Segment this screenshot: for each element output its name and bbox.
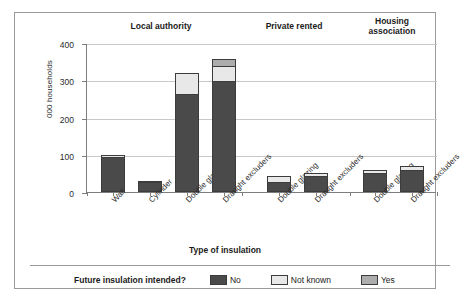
group-header-housing-association: Housing association xyxy=(349,16,435,36)
legend-item-no[interactable]: No xyxy=(210,275,241,285)
gridline-300 xyxy=(87,81,437,82)
y-tick-100: 100 xyxy=(82,156,87,157)
legend-swatch-no xyxy=(210,275,227,285)
chart-frame: 000 households 400 300 200 100 0 xyxy=(14,12,436,289)
x-tick-boundary-1 xyxy=(242,192,243,196)
x-tick-boundary-3 xyxy=(437,192,438,196)
legend-item-yes[interactable]: Yes xyxy=(361,275,395,285)
bar-0[interactable] xyxy=(101,155,125,192)
legend-label-yes: Yes xyxy=(381,275,395,285)
legend-label-not-known: Not known xyxy=(291,275,331,285)
chart-legend: Future insulation intended? No Not known… xyxy=(30,275,450,285)
bar-segment-notknown xyxy=(212,66,236,81)
bar-segment-no xyxy=(212,81,236,192)
legend-label-no: No xyxy=(230,275,241,285)
legend-divider xyxy=(30,265,450,266)
y-tick-300: 300 xyxy=(82,81,87,82)
legend-swatch-not-known xyxy=(271,275,288,285)
group-header-local-authority: Local authority xyxy=(101,21,221,31)
bar-2[interactable] xyxy=(175,73,199,192)
x-tick-boundary-2 xyxy=(350,192,351,196)
bar-3[interactable] xyxy=(212,59,236,192)
y-tick-label-0: 0 xyxy=(69,189,74,199)
legend-item-not-known[interactable]: Not known xyxy=(271,275,331,285)
gridline-400 xyxy=(87,44,437,45)
y-tick-label-200: 200 xyxy=(60,115,74,125)
bar-segment-yes xyxy=(212,59,236,66)
bar-segment-notknown xyxy=(175,73,199,94)
bar-segment-no xyxy=(175,94,199,192)
legend-title: Future insulation intended? xyxy=(74,275,186,285)
plot-area: 400 300 200 100 0 Local authority Privat… xyxy=(86,44,436,193)
y-tick-400: 400 xyxy=(82,44,87,45)
legend-swatch-yes xyxy=(361,275,378,285)
y-tick-label-100: 100 xyxy=(60,152,74,162)
x-axis-title: Type of insulation xyxy=(15,245,435,255)
y-tick-label-300: 300 xyxy=(60,77,74,87)
group-header-private-rented: Private rented xyxy=(239,21,349,31)
y-axis-title: 000 households xyxy=(45,60,54,118)
x-tick-boundary-0 xyxy=(87,192,88,196)
gridline-200 xyxy=(87,119,437,120)
y-tick-200: 200 xyxy=(82,119,87,120)
y-tick-label-400: 400 xyxy=(60,40,74,50)
bar-segment-no xyxy=(101,157,125,192)
